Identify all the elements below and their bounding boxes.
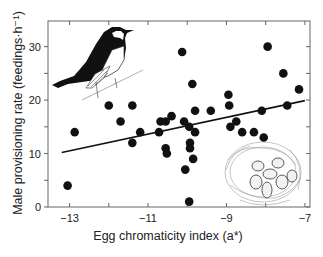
data-point (259, 133, 268, 142)
figure: −13−11−9−7 0102030 (0, 0, 323, 257)
data-point (257, 106, 266, 115)
data-point (188, 80, 197, 89)
data-point (295, 85, 304, 94)
data-point (63, 181, 72, 190)
data-point (191, 106, 200, 115)
data-point (116, 117, 125, 126)
data-point (70, 128, 79, 137)
data-point (136, 128, 145, 137)
scatter-chart: −13−11−9−7 0102030 (0, 0, 323, 257)
data-point (104, 101, 113, 110)
x-tick-label: −13 (60, 212, 79, 224)
nest-eggs-illustration-icon (225, 142, 301, 205)
data-point (181, 165, 190, 174)
data-point (178, 48, 187, 57)
x-tick-label: −9 (220, 212, 233, 224)
y-tick-label: 30 (29, 41, 41, 53)
data-point (189, 155, 198, 164)
data-point (128, 139, 137, 148)
data-point (186, 144, 195, 153)
y-tick-label: 20 (29, 94, 41, 106)
y-tick-labels: 0102030 (29, 41, 41, 213)
data-point (155, 128, 164, 137)
data-point (238, 128, 247, 137)
y-tick-label: 0 (35, 201, 41, 213)
data-point (167, 112, 176, 121)
regression-line (62, 101, 305, 153)
x-tick-label: −11 (139, 212, 157, 224)
x-axis-label: Egg chromaticity index (a*) (93, 229, 242, 243)
data-point (224, 90, 233, 99)
data-point (283, 101, 292, 110)
data-point (232, 117, 241, 126)
y-axis-label: Male provisioning rate (feedings·h⁻¹) (11, 11, 25, 215)
data-point (191, 128, 200, 137)
bird-illustration-icon (52, 27, 143, 100)
x-tick-labels: −13−11−9−7 (60, 212, 311, 224)
data-point (185, 197, 194, 206)
data-point (163, 149, 172, 158)
y-tick-label: 10 (29, 148, 41, 160)
data-point (128, 101, 137, 110)
data-point (225, 101, 234, 110)
data-point (263, 42, 272, 51)
x-tick-label: −7 (299, 212, 312, 224)
data-point (206, 106, 215, 115)
data-point (250, 128, 259, 137)
data-point (279, 69, 288, 78)
